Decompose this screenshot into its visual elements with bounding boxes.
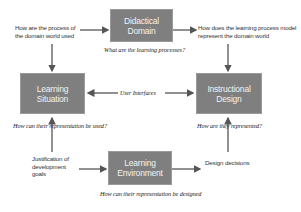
- label-learning-process-model: How does the learning process model repr…: [198, 24, 298, 39]
- question-situation: How can their representation be used?: [13, 122, 107, 129]
- label-user-interfaces: User Interfaces: [120, 90, 156, 96]
- box-instructional-design: Instructional Design: [196, 73, 262, 114]
- label-design-decisions: Design decisions: [205, 159, 249, 167]
- question-instructional: How are they represented?: [197, 122, 262, 129]
- label-justification: Justification of development goals: [32, 155, 78, 178]
- box-learning-environment: Learning Environment: [108, 151, 172, 185]
- label-process-domain-world: How are the process of the domain world …: [15, 24, 77, 39]
- question-didactical: What are the learning processes?: [104, 46, 185, 53]
- box-didactical-domain: Didactical Domain: [110, 9, 173, 42]
- box-learning-situation: Learning Situation: [20, 73, 85, 114]
- question-environment: How can their representation be designed: [100, 190, 201, 197]
